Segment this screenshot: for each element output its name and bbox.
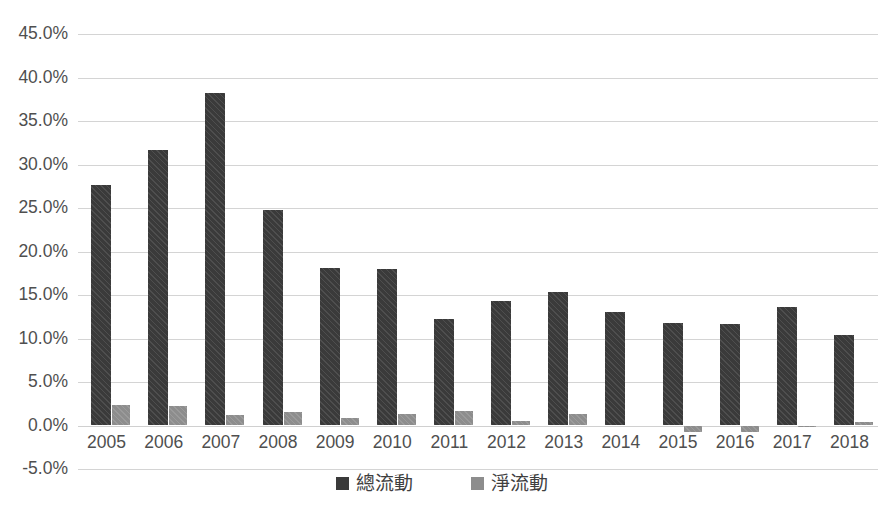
bar-net-2012 — [512, 421, 530, 425]
gridline — [78, 121, 878, 122]
y-axis-tick-label: 25.0% — [0, 197, 68, 218]
bar-net-2009 — [341, 418, 359, 426]
y-axis-tick-label: 40.0% — [0, 67, 68, 88]
y-axis-tick-label: 30.0% — [0, 154, 68, 175]
bar-total-2018 — [834, 335, 854, 425]
gridline — [78, 34, 878, 35]
chart-legend: 總流動淨流動 — [0, 474, 883, 493]
x-axis-tick-label: 2017 — [764, 432, 821, 453]
gridline — [78, 295, 878, 296]
bar-total-2012 — [491, 301, 511, 425]
bar-net-2005 — [112, 405, 130, 425]
gridline — [78, 252, 878, 253]
x-axis-tick-label: 2007 — [192, 432, 249, 453]
bar-total-2013 — [548, 292, 568, 425]
legend-item-total[interactable]: 總流動 — [336, 474, 413, 493]
gridline — [78, 208, 878, 209]
bar-net-2017 — [798, 426, 816, 427]
legend-label: 淨流動 — [491, 474, 548, 493]
bar-net-2007 — [226, 415, 244, 425]
y-axis-tick-label: 0.0% — [0, 415, 68, 436]
legend-item-net[interactable]: 淨流動 — [471, 474, 548, 493]
bar-chart: 45.0%40.0%35.0%30.0%25.0%20.0%15.0%10.0%… — [0, 0, 883, 507]
gridline — [78, 382, 878, 383]
y-axis-tick-label: 35.0% — [0, 110, 68, 131]
bar-total-2010 — [377, 269, 397, 426]
bar-total-2015 — [663, 323, 683, 426]
x-axis-tick-label: 2018 — [821, 432, 878, 453]
bar-total-2014 — [605, 312, 625, 425]
bar-total-2005 — [91, 185, 111, 425]
x-axis-tick-label: 2013 — [535, 432, 592, 453]
x-axis-tick-label: 2016 — [707, 432, 764, 453]
y-axis-tick-label: 10.0% — [0, 328, 68, 349]
plot-area — [78, 34, 878, 469]
gridline — [78, 469, 878, 470]
legend-swatch-icon — [336, 477, 349, 490]
bar-total-2016 — [720, 324, 740, 426]
legend-swatch-icon — [471, 477, 484, 490]
x-axis-tick-label: 2012 — [478, 432, 535, 453]
x-axis-tick-label: 2005 — [78, 432, 135, 453]
gridline — [78, 165, 878, 166]
bar-total-2011 — [434, 319, 454, 425]
bar-net-2018 — [855, 422, 873, 425]
legend-label: 總流動 — [356, 474, 413, 493]
bar-total-2009 — [320, 268, 340, 425]
x-axis-tick-label: 2008 — [249, 432, 306, 453]
x-axis-tick-label: 2014 — [592, 432, 649, 453]
x-axis-tick-label: 2006 — [135, 432, 192, 453]
x-axis-tick-label: 2015 — [649, 432, 706, 453]
y-axis-tick-label: 45.0% — [0, 23, 68, 44]
gridline — [78, 339, 878, 340]
gridline — [78, 78, 878, 79]
bar-total-2008 — [263, 210, 283, 426]
bar-net-2006 — [169, 406, 187, 425]
bar-net-2008 — [284, 412, 302, 426]
bar-net-2013 — [569, 414, 587, 425]
bar-total-2007 — [205, 93, 225, 425]
bar-net-2010 — [398, 414, 416, 425]
bar-net-2011 — [455, 411, 473, 426]
bar-total-2006 — [148, 150, 168, 426]
x-axis-tick-label: 2010 — [364, 432, 421, 453]
x-axis-tick-label: 2009 — [307, 432, 364, 453]
y-axis-tick-label: 20.0% — [0, 241, 68, 262]
bar-total-2017 — [777, 307, 797, 425]
y-axis-tick-label: 5.0% — [0, 371, 68, 392]
y-axis-tick-label: 15.0% — [0, 284, 68, 305]
x-axis-tick-label: 2011 — [421, 432, 478, 453]
